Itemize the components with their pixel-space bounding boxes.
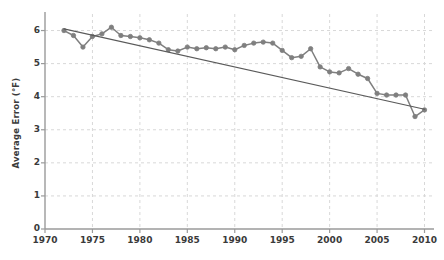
data-point <box>147 38 151 42</box>
data-point <box>185 45 189 49</box>
y-tick-label: 1 <box>20 190 40 200</box>
data-point <box>413 114 417 118</box>
data-point <box>204 46 208 50</box>
tick-marks <box>41 31 425 233</box>
data-point <box>214 47 218 51</box>
data-point <box>289 55 293 59</box>
data-point <box>242 43 246 47</box>
x-tick-label: 2000 <box>310 235 350 245</box>
data-point <box>318 65 322 69</box>
data-point <box>138 36 142 40</box>
data-point <box>299 54 303 58</box>
y-tick-label: 4 <box>20 91 40 101</box>
series-line-1 <box>64 29 425 109</box>
y-tick-label: 3 <box>20 124 40 134</box>
x-tick-label: 1995 <box>262 235 302 245</box>
data-point <box>327 70 331 74</box>
data-point <box>71 33 75 37</box>
gridlines <box>45 14 434 229</box>
data-point <box>195 47 199 51</box>
data-series-group <box>62 25 427 119</box>
data-point <box>100 32 104 36</box>
data-point <box>337 71 341 75</box>
data-point <box>384 93 388 97</box>
data-point <box>109 25 113 29</box>
data-point <box>157 41 161 45</box>
data-point <box>356 72 360 76</box>
data-point <box>375 91 379 95</box>
data-point <box>223 45 227 49</box>
data-point <box>280 48 284 52</box>
x-tick-label: 1985 <box>167 235 207 245</box>
x-tick-label: 1975 <box>72 235 112 245</box>
data-point <box>271 41 275 45</box>
chart-container: Average Error (°F) 0123456 1970197519801… <box>0 0 444 260</box>
data-point <box>261 40 265 44</box>
data-point <box>308 47 312 51</box>
data-point <box>394 93 398 97</box>
x-tick-label: 1970 <box>25 235 65 245</box>
data-point <box>119 33 123 37</box>
y-tick-label: 5 <box>20 58 40 68</box>
data-point <box>233 48 237 52</box>
data-point <box>346 66 350 70</box>
x-tick-label: 2005 <box>357 235 397 245</box>
data-point <box>403 93 407 97</box>
data-point <box>81 45 85 49</box>
x-tick-label: 1990 <box>215 235 255 245</box>
x-tick-label: 1980 <box>120 235 160 245</box>
data-point <box>365 76 369 80</box>
data-point <box>176 49 180 53</box>
y-tick-label: 0 <box>20 223 40 233</box>
y-tick-label: 6 <box>20 25 40 35</box>
y-tick-label: 2 <box>20 157 40 167</box>
axis-lines <box>45 12 434 229</box>
x-tick-label: 2010 <box>405 235 444 245</box>
data-point <box>128 34 132 38</box>
chart-plot-area <box>0 0 444 260</box>
data-point <box>252 41 256 45</box>
